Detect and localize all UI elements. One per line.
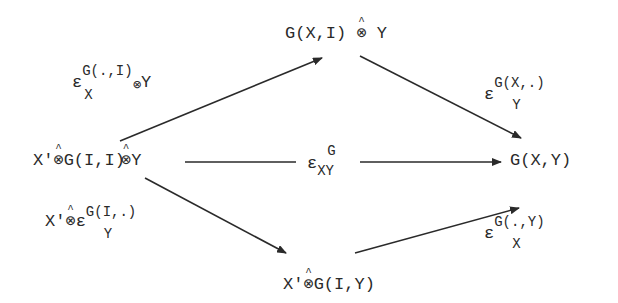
node-left: X'⊗G(I,I)⊗Y <box>33 152 141 169</box>
hat-tensor-icon: ⊗ <box>65 213 75 230</box>
hat-tensor-icon: ⊗ <box>303 276 313 293</box>
node-top-text: G(X,I) <box>285 24 356 43</box>
hat-tensor-icon: ⊗ <box>121 152 131 169</box>
arrow-left-to-top <box>120 58 322 141</box>
node-bottom: X'⊗G(I,Y) <box>283 276 375 293</box>
label-middle: εGXY <box>307 148 326 165</box>
node-right: G(X,Y) <box>510 152 571 169</box>
node-top: G(X,I) ⊗ Y <box>285 25 387 42</box>
hat-tensor-icon: ⊗ <box>53 152 63 169</box>
arrow-left-to-bottom <box>145 178 286 253</box>
hat-tensor-icon: ⊗ <box>356 25 366 42</box>
label-bottom-right: εG(.,Y)X <box>484 225 545 242</box>
label-top-left: εG(.,I)X⊗Y <box>72 74 151 91</box>
label-bottom-left: X'⊗εG(I,.)Y <box>45 213 136 230</box>
label-top-right: εG(X,.)Y <box>484 86 545 103</box>
